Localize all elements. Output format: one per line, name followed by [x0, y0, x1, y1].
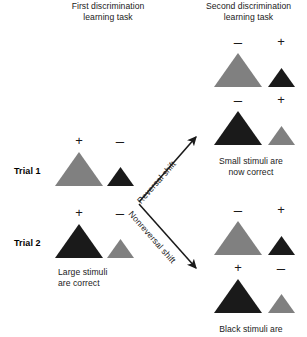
branching-arrows	[0, 0, 307, 337]
figure-canvas: First discrimination learning task Secon…	[0, 0, 307, 337]
